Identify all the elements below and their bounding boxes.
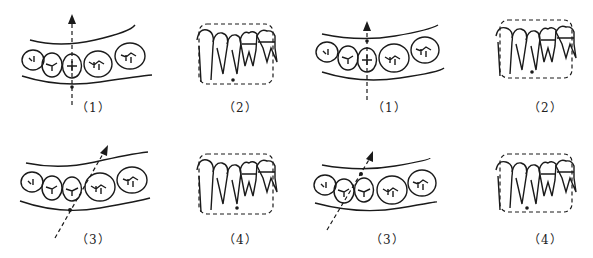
tooth-canine <box>21 172 43 192</box>
tooth-premolar-1 <box>334 179 354 203</box>
tooth-molar-2-lateral <box>257 160 277 192</box>
tooth-premolar-2-lateral <box>227 35 241 74</box>
tooth-premolar-2 <box>63 177 82 201</box>
dashed-region-box <box>199 154 273 214</box>
tooth-molar-1-lateral <box>240 32 257 66</box>
tooth-canine-lateral <box>496 162 512 210</box>
contact-point-marker <box>525 206 529 210</box>
tooth-canine-lateral <box>496 28 512 76</box>
tooth-premolar-1-lateral <box>213 33 228 74</box>
arrow-head-icon <box>68 14 76 24</box>
tooth-molar-2 <box>115 43 145 69</box>
arch-outline-lower <box>315 202 436 211</box>
arch-outline-upper <box>322 158 430 169</box>
tooth-premolar-1 <box>42 53 62 77</box>
contact-point-marker <box>70 85 74 89</box>
tooth-premolar-2-lateral <box>526 31 540 70</box>
contact-point-marker <box>235 206 239 210</box>
tooth-molar-2-lateral <box>556 160 576 192</box>
arrow-head-icon <box>363 21 371 31</box>
panel-left-3-occlusal: （3） <box>0 130 160 258</box>
tooth-premolar-2 <box>355 178 374 202</box>
panel-right-1-occlusal: （1） <box>300 0 460 120</box>
caption: （4） <box>223 230 258 247</box>
tooth-molar-2-lateral <box>556 26 576 58</box>
arch-outline-lower <box>22 75 152 84</box>
tooth-molar-2 <box>411 37 439 63</box>
arrow-head-icon <box>100 145 108 156</box>
caption: （1） <box>76 98 111 115</box>
tooth-premolar-2-lateral <box>526 165 540 204</box>
contact-point-marker <box>359 172 363 176</box>
arch-outline-lower <box>20 198 150 210</box>
contact-point-marker <box>68 208 72 212</box>
tooth-molar-1-lateral <box>539 162 556 196</box>
panel-left-4-lateral: （4） <box>185 130 295 258</box>
tooth-premolar-1-lateral <box>512 29 527 70</box>
tooth-molar-1 <box>84 51 112 77</box>
panel-left-2-lateral: （2） <box>185 0 295 120</box>
caption: （2） <box>223 98 258 115</box>
panel-left-1-occlusal: （1） <box>0 0 160 120</box>
tooth-canine <box>22 50 44 70</box>
arch-outline-upper <box>30 25 135 44</box>
tooth-premolar-1-lateral <box>213 163 228 204</box>
arch-outline-upper <box>26 152 148 166</box>
arrow-head-icon <box>366 151 373 162</box>
caption: （4） <box>528 230 563 247</box>
contact-point-marker <box>365 39 369 43</box>
tooth-canine <box>314 175 336 195</box>
tooth-molar-2 <box>408 170 436 196</box>
tooth-premolar-1-lateral <box>512 163 527 204</box>
tooth-premolar-1 <box>338 46 358 70</box>
caption: （2） <box>528 98 563 115</box>
caption: （3） <box>370 230 405 247</box>
tooth-molar-1 <box>377 176 407 204</box>
arch-outline-upper <box>322 25 438 39</box>
tooth-molar-1 <box>379 44 409 72</box>
caption: （3） <box>76 230 111 247</box>
tooth-molar-2 <box>117 167 147 193</box>
tooth-molar-1 <box>85 173 115 201</box>
tooth-premolar-2-lateral <box>227 165 241 204</box>
panel-right-3-occlusal: （3） <box>300 130 460 258</box>
tooth-molar-1-lateral <box>539 28 556 62</box>
panel-right-4-lateral: （4） <box>490 130 593 258</box>
tooth-molar-2-lateral <box>257 30 277 62</box>
contact-point-marker <box>530 70 534 74</box>
contact-point-marker <box>231 78 235 82</box>
panel-right-2-lateral: （2） <box>490 0 593 120</box>
arch-outline-lower <box>322 68 444 80</box>
tooth-premolar-1 <box>42 176 62 200</box>
tooth-canine <box>316 42 338 62</box>
dashed-region-box <box>199 24 273 84</box>
caption: （1） <box>372 98 407 115</box>
tooth-molar-1-lateral <box>240 162 257 196</box>
